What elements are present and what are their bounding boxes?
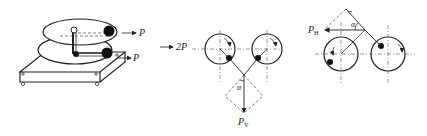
pv-label: PV bbox=[237, 116, 249, 128]
apparatus-panel: P P 2P bbox=[20, 19, 187, 86]
vertical-component-panel: α PV bbox=[192, 30, 282, 128]
upper-eccentric-mass bbox=[104, 26, 115, 37]
diagram-canvas: P P 2P α PV bbox=[0, 0, 427, 136]
rotation-arrow-left bbox=[224, 38, 230, 46]
shaft-top-ball bbox=[71, 27, 77, 33]
horizontal-component-panel: α PH bbox=[307, 9, 415, 85]
left-mass-h bbox=[327, 59, 333, 65]
lower-force-label: P bbox=[132, 52, 139, 63]
upper-force-label: P bbox=[138, 27, 145, 38]
resultant-label: 2P bbox=[176, 41, 187, 52]
alpha-mid-label: α bbox=[237, 83, 242, 92]
rotation-arrow-right-h bbox=[398, 44, 402, 52]
lower-eccentric-mass bbox=[102, 48, 113, 59]
rotation-arrow-right bbox=[270, 38, 276, 46]
ph-label: PH bbox=[307, 24, 319, 36]
